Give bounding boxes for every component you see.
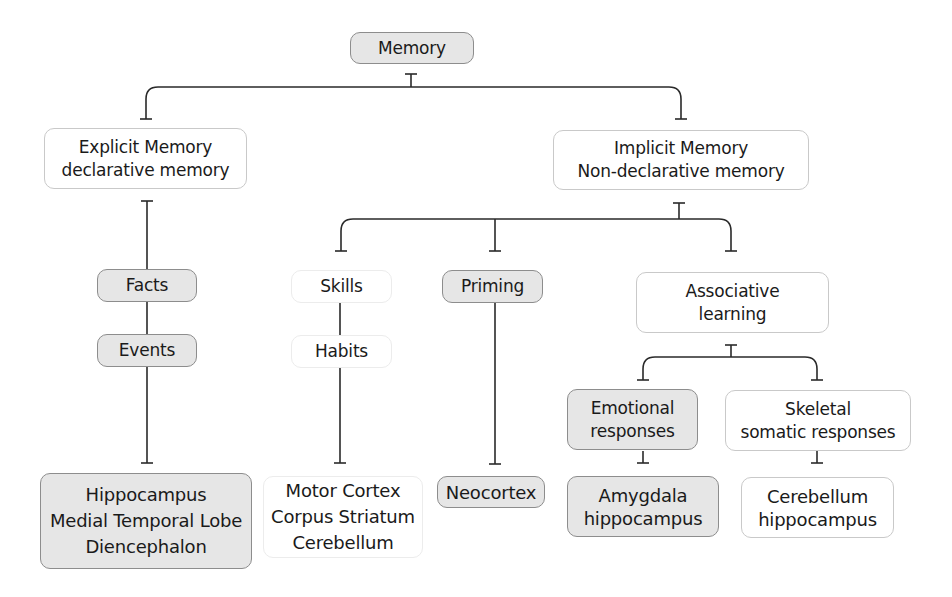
node-emotional-brain-regions: Amygdala hippocampus [567, 476, 719, 537]
node-label: Memory [378, 37, 446, 60]
node-associative-learning: Associative learning [636, 272, 829, 333]
node-label: Explicit Memory [79, 136, 212, 159]
node-explicit-memory: Explicit Memory declarative memory [44, 128, 247, 189]
node-label: Facts [126, 274, 169, 297]
region-label: Amygdala [599, 484, 688, 507]
node-emotional-responses: Emotional responses [567, 389, 698, 450]
node-sublabel: learning [699, 303, 767, 326]
node-explicit-brain-regions: Hippocampus Medial Temporal Lobe Diencep… [40, 473, 252, 569]
node-skeletal-somatic-responses: Skeletal somatic responses [725, 390, 911, 451]
region-label: Cerebellum [767, 485, 868, 508]
node-skills-brain-regions: Motor Cortex Corpus Striatum Cerebellum [263, 476, 423, 558]
node-priming: Priming [442, 270, 543, 303]
node-label: Skeletal [785, 398, 851, 421]
region-label: Motor Cortex [286, 478, 401, 504]
node-memory: Memory [350, 32, 474, 64]
node-skeletal-brain-regions: Cerebellum hippocampus [741, 477, 894, 538]
node-label: Implicit Memory [614, 137, 748, 160]
node-skills: Skills [291, 270, 392, 303]
region-label: hippocampus [584, 507, 703, 530]
node-label: Emotional [591, 397, 675, 420]
node-sublabel: somatic responses [740, 421, 895, 444]
node-label: Habits [315, 340, 368, 363]
region-label: Hippocampus [86, 482, 207, 508]
node-habits: Habits [291, 335, 392, 368]
node-facts: Facts [97, 269, 197, 302]
region-label: Neocortex [446, 481, 537, 504]
node-sublabel: responses [590, 420, 674, 443]
region-label: Medial Temporal Lobe [50, 508, 242, 534]
region-label: Diencephalon [85, 534, 206, 560]
node-label: Skills [320, 275, 362, 298]
node-label: Events [119, 339, 175, 362]
node-neocortex: Neocortex [437, 476, 545, 508]
node-sublabel: declarative memory [62, 159, 230, 182]
node-label: Associative [686, 280, 780, 303]
region-label: Cerebellum [292, 530, 393, 556]
region-label: Corpus Striatum [271, 504, 415, 530]
node-sublabel: Non-declarative memory [577, 160, 784, 183]
node-implicit-memory: Implicit Memory Non-declarative memory [553, 130, 809, 190]
region-label: hippocampus [758, 508, 877, 531]
node-events: Events [97, 334, 197, 367]
node-label: Priming [461, 275, 524, 298]
